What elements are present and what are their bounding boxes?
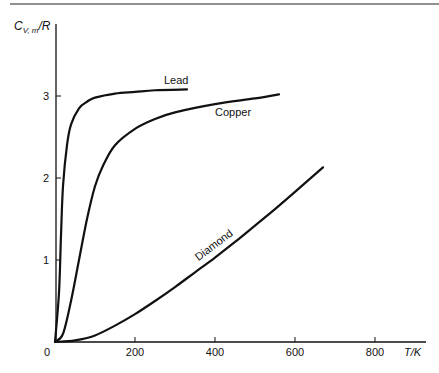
copper-curve — [55, 94, 279, 342]
diamond-curve — [55, 167, 323, 342]
axis-ticks: 200400600800123 — [43, 90, 384, 358]
y-tick-label: 3 — [43, 90, 49, 102]
x-tick-label: 200 — [126, 346, 144, 358]
x-axis-label: T/K — [404, 346, 422, 358]
curves — [55, 89, 323, 342]
copper-label: Copper — [215, 106, 251, 118]
chart-svg: 200400600800123 CV, m/R 0 T/K Lead Coppe… — [0, 0, 439, 373]
x-tick-label: 400 — [206, 346, 224, 358]
y-tick-label: 1 — [43, 254, 49, 266]
chart-figure: 200400600800123 CV, m/R 0 T/K Lead Coppe… — [0, 0, 439, 373]
lead-label: Lead — [164, 74, 188, 86]
y-axis-label: CV, m/R — [14, 19, 51, 35]
lead-curve — [55, 89, 187, 342]
x-tick-label: 800 — [366, 346, 384, 358]
x-tick-label: 600 — [286, 346, 304, 358]
origin-label: 0 — [44, 346, 50, 358]
y-tick-label: 2 — [43, 172, 49, 184]
